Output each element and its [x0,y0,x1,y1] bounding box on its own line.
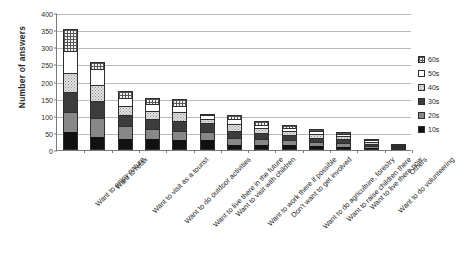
bar-segment-10s [254,145,269,150]
legend-item-10s[interactable]: 10s [418,122,465,136]
bar-segment-30s [90,101,105,118]
bar [145,98,160,150]
x-tick-mark [112,150,113,153]
bar-segment-20s [145,129,160,139]
bar-segment-10s [309,146,324,150]
x-tick-mark [221,150,222,153]
legend-label: 40s [428,84,439,91]
bar-segment-40s [145,111,160,119]
y-tick-label: 400 [41,11,53,18]
x-tick-mark [248,150,249,153]
bar-segment-10s [200,140,215,150]
y-tick-label: 150 [41,96,53,103]
x-tick-mark [330,150,331,153]
bar-segment-40s [172,112,187,121]
x-axis-label: Want to relax [113,155,149,191]
legend-label: 50s [428,70,439,77]
bar-segment-40s [118,106,133,115]
bar [63,29,78,150]
legend-swatch-icon [418,126,425,133]
legend-item-30s[interactable]: 30s [418,94,465,108]
y-tick-label: 0 [49,148,53,155]
bar [336,132,351,150]
y-axis-title: Number of answers [17,7,27,127]
bar-segment-10s [63,132,78,150]
bar-segment-60s [118,91,133,98]
bar-segment-10s [391,149,406,150]
bar-group [57,14,411,150]
bar [200,114,215,150]
legend-swatch-icon [418,70,425,77]
plot-area: 050100150200250300350400 [56,14,411,151]
bar-segment-20s [172,131,187,140]
bar-segment-20s [63,112,78,132]
legend-item-40s[interactable]: 40s [418,80,465,94]
y-tick-label: 350 [41,28,53,35]
x-tick-mark [412,150,413,153]
legend-item-20s[interactable]: 20s [418,108,465,122]
y-tick-label: 200 [41,79,53,86]
bar [391,144,406,150]
legend-item-60s[interactable]: 60s [418,52,465,66]
bar-segment-60s [90,62,105,69]
legend-swatch-icon [418,56,425,63]
bar [227,115,242,150]
x-tick-mark [84,150,85,153]
bar-segment-20s [227,138,242,145]
legend-swatch-icon [418,84,425,91]
bar-segment-10s [336,147,351,150]
bar-segment-10s [90,137,105,150]
x-tick-mark [357,150,358,153]
bar-segment-10s [364,148,379,150]
legend-swatch-icon [418,112,425,119]
bar-segment-20s [90,118,105,137]
bar [254,121,269,150]
bar-segment-10s [145,139,160,150]
bar-segment-10s [227,145,242,150]
bar-segment-20s [200,132,215,140]
bar-segment-30s [227,131,242,139]
bar-segment-30s [145,119,160,129]
y-tick-label: 50 [45,130,53,137]
y-tick-label: 300 [41,45,53,52]
legend-label: 20s [428,112,439,119]
x-tick-mark [275,150,276,153]
bar [282,125,297,150]
bar-segment-50s [145,104,160,111]
bar [172,99,187,150]
x-axis-label: Others [408,155,430,177]
bar-segment-20s [118,126,133,140]
x-tick-mark [385,150,386,153]
stacked-bar-chart: Number of answers 0501001502002503003504… [0,0,467,268]
bar [309,129,324,150]
y-tick-label: 100 [41,113,53,120]
bar [90,62,105,150]
x-tick-mark [303,150,304,153]
x-tick-mark [194,150,195,153]
bar-segment-10s [172,140,187,150]
bar [364,139,379,150]
bar-segment-50s [172,106,187,113]
legend-label: 60s [428,56,439,63]
bar-segment-30s [118,115,133,126]
bar [118,91,133,150]
bar-segment-30s [172,121,187,131]
bar-segment-30s [63,92,78,113]
bar-segment-60s [63,29,78,51]
bar-segment-30s [200,123,215,132]
legend-label: 30s [428,98,439,105]
legend-label: 10s [428,126,439,133]
bar-segment-10s [282,145,297,150]
legend: 60s50s40s30s20s10s [418,52,465,136]
bar-segment-50s [118,98,133,106]
y-tick-label: 250 [41,62,53,69]
legend-item-50s[interactable]: 50s [418,66,465,80]
bar-segment-50s [63,51,78,73]
x-tick-mark [139,150,140,153]
bar-segment-10s [118,139,133,150]
bar-segment-40s [63,73,78,92]
bar-segment-50s [90,69,105,85]
legend-swatch-icon [418,98,425,105]
y-tick-mark [54,151,57,152]
bar-segment-40s [90,85,105,101]
